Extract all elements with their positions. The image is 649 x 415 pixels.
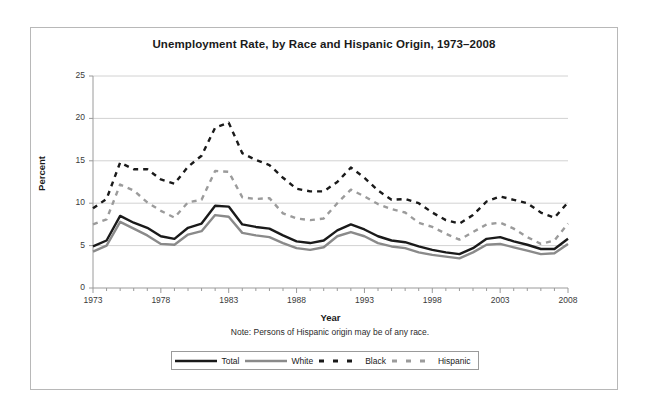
legend-swatch-black (318, 356, 362, 366)
axis-lines (93, 76, 568, 288)
gridlines (93, 76, 568, 246)
legend-label-total: Total (221, 356, 244, 366)
legend-swatch-total (174, 356, 218, 366)
legend-label-hispanic: Hispanic (438, 356, 476, 366)
chart-figure: Unemployment Rate, by Race and Hispanic … (0, 0, 649, 415)
legend-swatch-hispanic (391, 356, 435, 366)
legend-item-hispanic[interactable]: Hispanic (391, 356, 476, 366)
x-tick-1978: 1978 (141, 295, 181, 305)
legend-label-white: White (291, 356, 318, 366)
x-tick-2003: 2003 (480, 295, 520, 305)
x-tick-1983: 1983 (209, 295, 249, 305)
legend-label-black: Black (365, 356, 391, 366)
y-tick-0: 0 (59, 282, 85, 292)
legend-swatch-white (244, 356, 288, 366)
y-tick-10: 10 (59, 197, 85, 207)
x-tick-1993: 1993 (344, 295, 384, 305)
y-tick-15: 15 (59, 155, 85, 165)
chart-legend: Total White Black Hispanic (171, 351, 479, 370)
series-hispanic (93, 171, 568, 244)
x-tick-1998: 1998 (412, 295, 452, 305)
y-tick-20: 20 (59, 112, 85, 122)
legend-item-total[interactable]: Total (174, 356, 244, 366)
axis-ticks (89, 76, 568, 293)
y-tick-25: 25 (59, 70, 85, 80)
data-series (93, 123, 568, 259)
x-tick-2008: 2008 (548, 295, 588, 305)
y-tick-5: 5 (59, 240, 85, 250)
legend-item-black[interactable]: Black (318, 356, 391, 366)
x-tick-1988: 1988 (277, 295, 317, 305)
series-black (93, 123, 568, 224)
x-tick-1973: 1973 (73, 295, 113, 305)
legend-item-white[interactable]: White (244, 356, 318, 366)
